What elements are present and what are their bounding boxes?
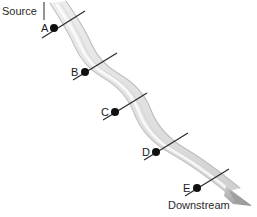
sampling-point-dot-a: [50, 24, 58, 32]
sampling-point-label-e: E: [183, 183, 190, 194]
sampling-point-label-a: A: [41, 23, 48, 34]
sampling-point-label-d: D: [142, 147, 150, 158]
river-graphic: [0, 0, 257, 217]
sampling-point-label-c: C: [101, 107, 109, 118]
river-channel: [50, 1, 240, 192]
sampling-point-dots: [50, 24, 201, 192]
sampling-point-dot-d: [152, 148, 160, 156]
river-right-bank: [66, 1, 240, 188]
sampling-point-dot-e: [193, 184, 201, 192]
downstream-label: Downstream: [168, 200, 230, 211]
river-thalweg: [61, 4, 233, 190]
sampling-point-label-b: B: [71, 67, 78, 78]
river-body-fill: [50, 1, 240, 192]
river-transect-diagram: Source A B C D E Downstream: [0, 0, 257, 217]
source-label: Source: [2, 6, 37, 17]
sampling-point-dot-b: [81, 68, 89, 76]
sampling-point-dot-c: [111, 108, 119, 116]
